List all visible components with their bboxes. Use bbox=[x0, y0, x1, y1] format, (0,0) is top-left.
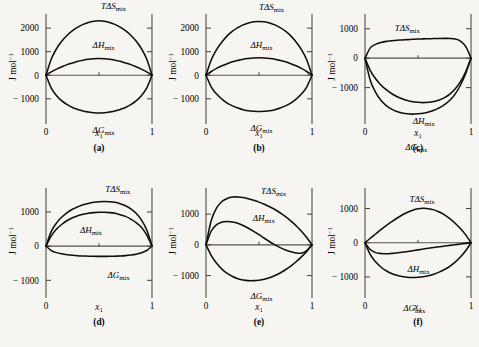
curve-label-tds: TΔSmix bbox=[259, 2, 285, 13]
plot-panel-f: 10000− 1000TΔSmixΔHmixΔGmixJ mol−101x1(f… bbox=[319, 174, 479, 347]
x-tick-label-0: 0 bbox=[363, 301, 368, 311]
curve-dg bbox=[206, 75, 312, 111]
curve-label-dh: ΔHmix bbox=[79, 224, 103, 235]
y-tick-label: − 1000 bbox=[332, 272, 359, 282]
y-axis-title: J mol−1 bbox=[166, 53, 177, 80]
y-tick-label: − 1000 bbox=[13, 275, 39, 285]
y-tick-label: 1000 bbox=[340, 24, 359, 34]
curve-dg bbox=[46, 246, 152, 256]
y-tick-label: − 1000 bbox=[172, 270, 199, 280]
y-tick-label: 1000 bbox=[20, 47, 39, 57]
x-tick-label-1: 1 bbox=[309, 127, 314, 137]
panel-caption: (a) bbox=[94, 143, 105, 154]
y-tick-label: 1000 bbox=[180, 209, 199, 219]
y-tick-label-zero: 0 bbox=[194, 71, 199, 81]
plot-svg: 10000− 1000TΔSmixΔHmixΔGmixJ mol−101x1(e… bbox=[160, 174, 320, 347]
y-axis-title: J mol−1 bbox=[166, 227, 177, 254]
x-tick-label-1: 1 bbox=[150, 127, 155, 137]
y-tick-label: − 1000 bbox=[332, 83, 359, 93]
y-tick-label: 2000 bbox=[20, 23, 39, 33]
curve-label-dg: ΔGmix bbox=[249, 290, 273, 301]
plot-svg: 10000− 1000TΔSmixΔHmixΔGmixJ mol−101x1(c… bbox=[319, 0, 479, 174]
x-tick-label-1: 1 bbox=[469, 127, 474, 137]
thermodynamic-mixing-figure: 200010000− 1000TΔSmixΔHmixΔGmixJ mol−101… bbox=[0, 0, 479, 347]
y-tick-label: 1000 bbox=[180, 47, 199, 57]
curve-label-dh: ΔHmix bbox=[249, 40, 273, 51]
y-tick-label: − 1000 bbox=[172, 94, 199, 104]
curve-dg bbox=[206, 244, 312, 280]
panel-caption: (c) bbox=[413, 143, 423, 154]
curve-label-dh: ΔHmix bbox=[407, 263, 431, 274]
x-axis-title: x1 bbox=[254, 302, 262, 313]
y-tick-label-zero: 0 bbox=[34, 241, 39, 251]
plot-panel-d: 10000− 1000TΔSmixΔHmixΔGmixJ mol−101x1(d… bbox=[0, 174, 160, 347]
y-tick-label: 2000 bbox=[180, 23, 199, 33]
x-tick-label-1: 1 bbox=[150, 300, 155, 310]
plot-panel-e: 10000− 1000TΔSmixΔHmixΔGmixJ mol−101x1(e… bbox=[160, 174, 320, 347]
plot-panel-a: 200010000− 1000TΔSmixΔHmixΔGmixJ mol−101… bbox=[0, 0, 160, 174]
curve-label-dh: ΔHmix bbox=[92, 40, 116, 51]
x-tick-label-1: 1 bbox=[469, 301, 474, 311]
curve-dg bbox=[365, 58, 471, 114]
y-tick-label-zero: 0 bbox=[354, 53, 359, 63]
panel-caption: (d) bbox=[93, 316, 104, 327]
plot-svg: 200010000− 1000TΔSmixΔHmixΔGmixJ mol−101… bbox=[160, 0, 320, 174]
y-tick-label-zero: 0 bbox=[194, 240, 199, 250]
plot-panel-b: 200010000− 1000TΔSmixΔHmixΔGmixJ mol−101… bbox=[160, 0, 320, 174]
y-tick-label-zero: 0 bbox=[34, 71, 39, 81]
curve-label-tds: TΔSmix bbox=[105, 183, 131, 194]
y-axis-title: J mol−1 bbox=[326, 53, 337, 80]
curve-tds bbox=[365, 208, 471, 242]
curve-label-dh: ΔHmix bbox=[251, 213, 275, 224]
curve-label-tds: TΔSmix bbox=[395, 23, 421, 34]
x-axis-title: x1 bbox=[414, 302, 422, 313]
curve-label-tds: TΔSmix bbox=[410, 194, 436, 205]
plot-svg: 10000− 1000TΔSmixΔHmixΔGmixJ mol−101x1(d… bbox=[0, 174, 160, 347]
x-tick-label-0: 0 bbox=[203, 127, 208, 137]
x-tick-label-0: 0 bbox=[203, 301, 208, 311]
curve-label-tds: TΔSmix bbox=[261, 186, 287, 197]
panel-caption: (b) bbox=[253, 143, 264, 154]
y-axis-title: J mol−1 bbox=[7, 53, 18, 80]
y-axis-title: J mol−1 bbox=[326, 227, 337, 254]
panel-caption: (f) bbox=[414, 317, 423, 328]
x-tick-label-0: 0 bbox=[363, 127, 368, 137]
y-axis-title: J mol−1 bbox=[7, 227, 18, 254]
x-tick-label-0: 0 bbox=[44, 300, 49, 310]
x-tick-label-0: 0 bbox=[44, 127, 49, 137]
plot-panel-c: 10000− 1000TΔSmixΔHmixΔGmixJ mol−101x1(c… bbox=[319, 0, 479, 174]
curve-dh bbox=[365, 242, 471, 253]
y-tick-label: 1000 bbox=[20, 207, 39, 217]
curve-dh bbox=[365, 58, 471, 102]
curve-label-dh: ΔHmix bbox=[412, 116, 436, 127]
panel-caption: (e) bbox=[253, 317, 263, 328]
x-tick-label-1: 1 bbox=[309, 301, 314, 311]
x-axis-title: x1 bbox=[94, 301, 102, 312]
y-tick-label: − 1000 bbox=[13, 94, 39, 104]
plot-svg: 10000− 1000TΔSmixΔHmixΔGmixJ mol−101x1(f… bbox=[319, 174, 479, 347]
curve-dg bbox=[46, 75, 152, 113]
x-axis-title: x1 bbox=[414, 128, 422, 139]
y-tick-label: 1000 bbox=[340, 203, 359, 213]
plot-svg: 200010000− 1000TΔSmixΔHmixΔGmixJ mol−101… bbox=[0, 0, 160, 174]
curve-label-tds: TΔSmix bbox=[101, 1, 127, 12]
y-tick-label-zero: 0 bbox=[354, 238, 359, 248]
curve-label-dg: ΔGmix bbox=[106, 270, 130, 281]
